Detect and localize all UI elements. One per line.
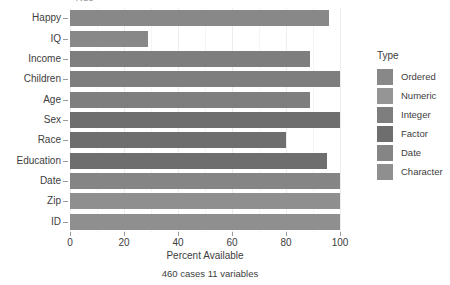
legend-item-integer[interactable]: Integer (372, 105, 450, 124)
x-tick-label-20: 20 (118, 237, 129, 248)
bar-race[interactable] (70, 132, 286, 148)
y-axis: HappyIQIncomeChildrenAgeSexRaceEducation… (0, 8, 70, 232)
x-axis-title: Percent Available (70, 250, 340, 261)
legend-item-ordered[interactable]: Ordered (372, 67, 450, 86)
x-axis: 020406080100 (70, 232, 340, 252)
y-tick-mark (63, 140, 68, 141)
bar-row (70, 191, 340, 211)
plot-area (70, 8, 340, 232)
x-tick-label-0: 0 (67, 237, 73, 248)
legend-item-date[interactable]: Date (372, 143, 450, 162)
bar-date[interactable] (70, 173, 340, 189)
y-tick-label-race: Race (38, 135, 61, 145)
chart-caption: 460 cases 11 variables (0, 268, 420, 279)
legend-item-factor[interactable]: Factor (372, 124, 450, 143)
y-tick-label-iq: IQ (50, 34, 61, 44)
legend-label-integer: Integer (401, 109, 431, 120)
x-tick-mark (340, 232, 341, 236)
legend-item-character[interactable]: Character (372, 162, 450, 181)
y-tick-label-id: ID (51, 217, 61, 227)
bar-zip[interactable] (70, 193, 340, 209)
legend: Type OrderedNumericIntegerFactorDateChar… (372, 50, 450, 181)
legend-swatch-character (377, 164, 393, 180)
bar-row (70, 110, 340, 130)
gridline-vertical (340, 8, 341, 232)
bar-row (70, 130, 340, 150)
x-tick-label-40: 40 (172, 237, 183, 248)
y-tick-label-happy: Happy (32, 13, 61, 23)
y-tick-label-children: Children (24, 74, 61, 84)
bar-income[interactable] (70, 51, 310, 67)
bar-row (70, 8, 340, 28)
legend-title: Type (377, 50, 450, 61)
bar-row (70, 212, 340, 232)
legend-swatch-integer (377, 107, 393, 123)
legend-label-character: Character (401, 166, 443, 177)
y-tick-label-income: Income (28, 54, 61, 64)
y-tick-mark (63, 120, 68, 121)
x-tick-mark (70, 232, 71, 236)
y-tick-label-sex: Sex (44, 115, 61, 125)
x-tick-mark (232, 232, 233, 236)
bar-happy[interactable] (70, 10, 329, 26)
y-tick-mark (63, 18, 68, 19)
x-tick-mark (124, 232, 125, 236)
bar-row (70, 89, 340, 109)
y-tick-mark (63, 222, 68, 223)
legend-label-numeric: Numeric (401, 90, 436, 101)
y-tick-mark (63, 39, 68, 40)
y-tick-label-education: Education (17, 156, 61, 166)
legend-swatch-numeric (377, 88, 393, 104)
bar-row (70, 49, 340, 69)
bar-children[interactable] (70, 71, 340, 87)
bar-row (70, 171, 340, 191)
y-tick-label-age: Age (43, 95, 61, 105)
legend-item-numeric[interactable]: Numeric (372, 86, 450, 105)
y-tick-mark (63, 100, 68, 101)
legend-swatch-date (377, 145, 393, 161)
legend-swatch-factor (377, 126, 393, 142)
bar-iq[interactable] (70, 31, 148, 47)
bar-row (70, 69, 340, 89)
bar-sex[interactable] (70, 112, 340, 128)
bar-row (70, 151, 340, 171)
y-tick-label-date: Date (40, 176, 61, 186)
x-tick-mark (178, 232, 179, 236)
clipped-chart-title: Type (74, 0, 94, 1)
legend-label-factor: Factor (401, 128, 428, 139)
x-tick-label-60: 60 (226, 237, 237, 248)
legend-label-date: Date (401, 147, 421, 158)
x-tick-label-100: 100 (332, 237, 349, 248)
legend-label-ordered: Ordered (401, 71, 436, 82)
bar-id[interactable] (70, 214, 340, 230)
y-tick-mark (63, 59, 68, 60)
y-tick-mark (63, 161, 68, 162)
y-tick-mark (63, 201, 68, 202)
bar-age[interactable] (70, 92, 310, 108)
x-tick-label-80: 80 (280, 237, 291, 248)
legend-swatch-ordered (377, 69, 393, 85)
y-tick-mark (63, 181, 68, 182)
bar-education[interactable] (70, 153, 327, 169)
legend-items: OrderedNumericIntegerFactorDateCharacter (372, 67, 450, 181)
y-tick-label-zip: Zip (47, 196, 61, 206)
x-tick-mark (286, 232, 287, 236)
bar-row (70, 28, 340, 48)
y-tick-mark (63, 79, 68, 80)
